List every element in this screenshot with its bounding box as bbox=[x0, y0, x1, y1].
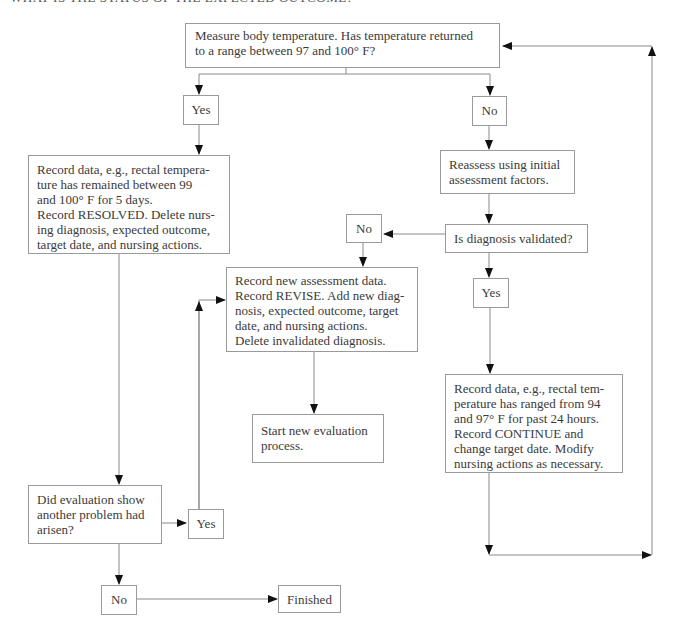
box-text-line: arisen? bbox=[37, 522, 153, 537]
box-text-line: another problem had bbox=[37, 507, 153, 522]
diagnosis-validated-box: Is diagnosis validated? bbox=[445, 224, 588, 253]
box-text-line: Record data, e.g., rectal tempera- bbox=[37, 162, 221, 177]
box-text-line: ture has remained between 99 bbox=[37, 177, 221, 192]
another-problem-box: Did evaluation show another problem had … bbox=[28, 485, 162, 544]
box-text-line: Record CONTINUE and bbox=[454, 426, 614, 441]
connector-measure-branch bbox=[199, 67, 490, 74]
yes-bottom-box: Yes bbox=[188, 509, 224, 539]
box-text-line: Delete invalidated diagnosis. bbox=[235, 333, 409, 348]
yes-top-box: Yes bbox=[183, 95, 219, 125]
box-text-line: Reassess using initial bbox=[449, 157, 566, 172]
box-text-line: nursing actions as necessary. bbox=[454, 456, 614, 471]
continue-box: Record data, e.g., rectal tem- perature … bbox=[445, 374, 623, 473]
finished-box: Finished bbox=[278, 585, 341, 613]
box-text-line: assessment factors. bbox=[449, 172, 566, 187]
box-text-line: Record REVISE. Add new diag- bbox=[235, 288, 409, 303]
box-text-line: Did evaluation show bbox=[37, 492, 153, 507]
box-text-line: Start new evaluation bbox=[261, 423, 375, 438]
box-text-line: and 100° F for 5 days. bbox=[37, 192, 221, 207]
box-text-line: Record new assessment data. bbox=[235, 273, 409, 288]
box-text-line: Record data, e.g., rectal tem- bbox=[454, 381, 614, 396]
yes-mid-box: Yes bbox=[473, 278, 509, 308]
box-text-line: and 97° F for past 24 hours. bbox=[454, 411, 614, 426]
start-new-evaluation-box: Start new evaluation process. bbox=[252, 414, 384, 463]
box-text-line: process. bbox=[261, 438, 375, 453]
revise-box: Record new assessment data. Record REVIS… bbox=[226, 267, 418, 352]
no-bottom-box: No bbox=[101, 585, 137, 615]
no-top-box: No bbox=[472, 96, 507, 126]
box-text-line: target date, and nursing actions. bbox=[37, 237, 221, 252]
box-text-line: Measure body temperature. Has temperatur… bbox=[195, 28, 491, 43]
arrow-yes-bottom-to-revise bbox=[199, 300, 225, 509]
resolved-box: Record data, e.g., rectal tempera- ture … bbox=[28, 155, 230, 254]
reassess-box: Reassess using initial assessment factor… bbox=[440, 150, 575, 194]
measure-temperature-box: Measure body temperature. Has temperatur… bbox=[185, 23, 500, 68]
box-text-line: perature has ranged from 94 bbox=[454, 396, 614, 411]
box-text-line: to a range between 97 and 100° F? bbox=[195, 43, 491, 58]
box-text-line: Is diagnosis validated? bbox=[454, 231, 579, 246]
box-text-line: ing diagnosis, expected outcome, bbox=[37, 222, 221, 237]
box-text-line: date, and nursing actions. bbox=[235, 318, 409, 333]
box-text-line: change target date. Modify bbox=[454, 441, 614, 456]
no-mid-box: No bbox=[346, 214, 382, 243]
box-text-line: nosis, expected outcome, target bbox=[235, 303, 409, 318]
box-text-line: Record RESOLVED. Delete nurs- bbox=[37, 207, 221, 222]
